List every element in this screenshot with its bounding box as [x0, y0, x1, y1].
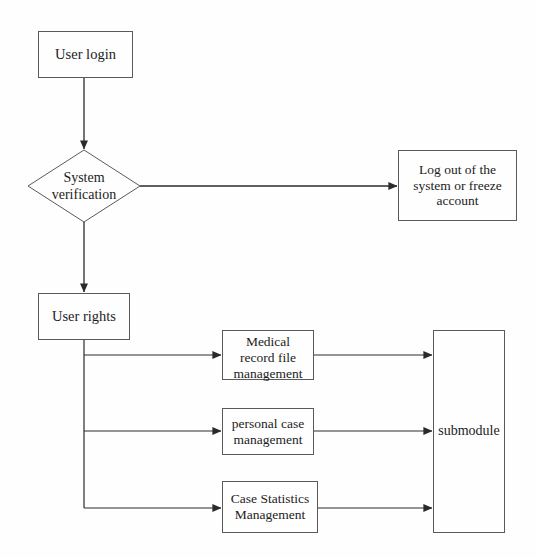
node-user-rights[interactable]: User rights [38, 293, 130, 340]
node-medical-record-file-management-label: Medical record file management [223, 334, 313, 382]
node-system-verification-label: System verification [34, 170, 134, 204]
node-submodule[interactable]: submodule [433, 330, 505, 533]
node-submodule-label: submodule [434, 423, 504, 440]
node-logout-or-freeze-label: Log out of the system or freeze account [399, 162, 516, 210]
node-medical-record-file-management[interactable]: Medical record file management [222, 330, 314, 380]
node-user-login-label: User login [39, 46, 132, 63]
node-user-login[interactable]: User login [38, 31, 133, 78]
node-case-statistics-management[interactable]: Case Statistics Management [222, 481, 318, 533]
node-system-verification[interactable]: System verification [34, 163, 134, 211]
node-logout-or-freeze[interactable]: Log out of the system or freeze account [398, 150, 517, 221]
node-personal-case-management-label: personal case management [223, 416, 313, 448]
flowchart-canvas: User login System verification Log out o… [0, 0, 536, 557]
node-personal-case-management[interactable]: personal case management [222, 408, 314, 455]
node-user-rights-label: User rights [39, 308, 129, 325]
node-case-statistics-management-label: Case Statistics Management [223, 491, 317, 523]
